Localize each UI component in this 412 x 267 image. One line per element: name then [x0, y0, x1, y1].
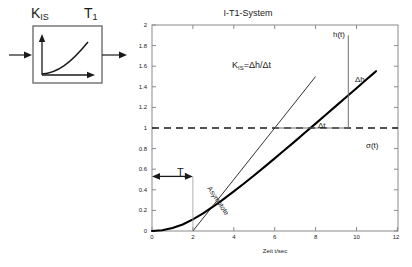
y-tick-label: 1.2 — [133, 104, 147, 110]
y-tick-label: 1.8 — [133, 43, 147, 49]
h-of-t-label: h(t) — [333, 31, 345, 39]
delta-h-label: Δh — [355, 76, 365, 84]
chart-title: I-T1-System — [223, 9, 272, 18]
faint-caption-strip — [0, 261, 412, 267]
chart-plot-area — [152, 25, 398, 231]
x-tick-label: 6 — [273, 234, 276, 240]
output-arrow — [102, 52, 127, 59]
sigma-of-t-label: σ(t) — [366, 142, 379, 150]
t1-label: T1 — [177, 167, 188, 178]
y-tick-label: 1 — [133, 125, 147, 131]
gain-formula-label: KIS=Δh/Δt — [232, 61, 271, 70]
y-tick-label: 0.6 — [133, 166, 147, 172]
x-tick-label: 12 — [393, 234, 400, 240]
y-tick-label: 0 — [133, 228, 147, 234]
x-axis-title: Zeit t/sec — [263, 248, 287, 254]
y-tick-label: 0.8 — [133, 146, 147, 152]
x-tick-label: 10 — [353, 234, 360, 240]
block-time-constant-label: T1 — [84, 6, 98, 20]
y-tick-label: 0.4 — [133, 187, 147, 193]
x-tick-label: 4 — [232, 234, 235, 240]
y-tick-label: 1.4 — [133, 84, 147, 90]
input-arrow — [9, 52, 32, 59]
y-tick-label: 1.6 — [133, 63, 147, 69]
y-tick-label: 0.2 — [133, 207, 147, 213]
x-tick-label: 0 — [150, 234, 153, 240]
figure-root — [0, 0, 412, 267]
delta-t-label: Δt — [318, 122, 326, 130]
y-tick-label: 2 — [133, 22, 147, 28]
x-tick-label: 2 — [191, 234, 194, 240]
block-gain-label: KIS — [31, 6, 49, 20]
block-diagram — [9, 26, 127, 83]
x-tick-label: 8 — [314, 234, 317, 240]
